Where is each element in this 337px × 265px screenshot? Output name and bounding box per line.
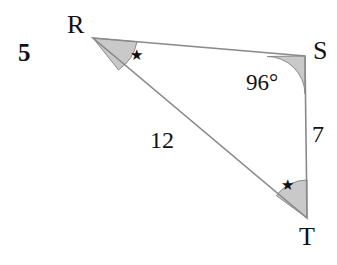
congruent-angle-star-r: ★	[130, 48, 143, 63]
vertex-label-t: T	[299, 224, 315, 250]
angle-measure-s: 96°	[246, 71, 278, 94]
triangle-outline	[93, 38, 307, 218]
vertex-label-r: R	[67, 12, 84, 38]
side-length-rt: 12	[150, 128, 174, 152]
congruent-angle-star-t: ★	[281, 178, 294, 193]
side-length-st: 7	[312, 122, 324, 146]
geometry-figure: 5 R S T 96° 12 7 ★ ★	[0, 0, 337, 265]
vertex-label-s: S	[313, 38, 327, 64]
